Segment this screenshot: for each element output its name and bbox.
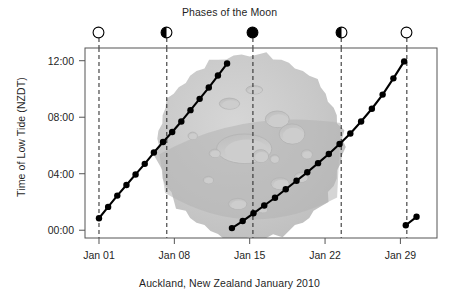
- data-point: [315, 160, 321, 166]
- moon-watermark: [154, 52, 346, 240]
- x-tick-label: Jan 01: [83, 249, 115, 261]
- data-point: [336, 141, 342, 147]
- data-point: [206, 84, 212, 90]
- data-point: [178, 118, 184, 124]
- data-point: [401, 58, 407, 64]
- x-tick-label: Jan 08: [159, 249, 191, 261]
- y-tick-label: 00:00: [48, 224, 74, 236]
- data-point: [224, 60, 230, 66]
- data-point: [229, 225, 235, 231]
- data-point: [240, 218, 246, 224]
- data-point: [187, 107, 193, 113]
- data-point: [304, 169, 310, 175]
- tide-series-3: [403, 214, 420, 229]
- tide-moon-chart-figure: Phases of the Moon Time of Low Tide (NZD…: [0, 0, 459, 305]
- data-point: [283, 186, 289, 192]
- x-tick-label: Jan 29: [385, 249, 417, 261]
- data-point: [169, 129, 175, 135]
- data-point: [379, 91, 385, 97]
- y-tick-label: 12:00: [48, 55, 74, 67]
- data-point: [390, 75, 396, 81]
- data-point: [160, 139, 166, 145]
- chart-caption: Auckland, New Zealand January 2010: [0, 277, 459, 289]
- data-point: [293, 178, 299, 184]
- data-point: [250, 210, 256, 216]
- data-point: [272, 195, 278, 201]
- data-point: [114, 192, 120, 198]
- data-point: [196, 96, 202, 102]
- data-point: [413, 214, 419, 220]
- x-tick-label: Jan 15: [234, 249, 266, 261]
- data-point: [215, 72, 221, 78]
- data-point: [132, 171, 138, 177]
- x-tick-label: Jan 22: [309, 249, 341, 261]
- data-point: [96, 215, 102, 221]
- data-point: [358, 118, 364, 124]
- data-point: [347, 130, 353, 136]
- data-point: [151, 149, 157, 155]
- data-point: [403, 222, 409, 228]
- data-point: [123, 182, 129, 188]
- y-tick-label: 08:00: [48, 111, 74, 123]
- data-point: [105, 204, 111, 210]
- data-point: [142, 161, 148, 167]
- data-point: [261, 202, 267, 208]
- y-tick-label: 04:00: [48, 168, 74, 180]
- data-point: [326, 151, 332, 157]
- data-point: [369, 106, 375, 112]
